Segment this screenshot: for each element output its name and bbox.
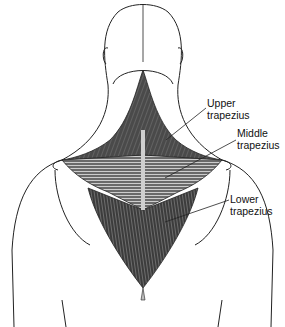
- label-upper-line2: trapezius: [207, 109, 250, 121]
- label-middle-line2: trapezius: [237, 139, 280, 151]
- leader-upper: [166, 108, 206, 140]
- label-middle-line1: Middle: [237, 127, 280, 139]
- trapezius-diagram: Upper trapezius Middle trapezius Lower t…: [0, 0, 285, 327]
- label-lower-line2: trapezius: [230, 205, 273, 217]
- label-upper-trapezius: Upper trapezius: [207, 97, 250, 121]
- trapezius-muscle: [62, 70, 222, 300]
- anatomy-illustration: [0, 0, 285, 327]
- label-lower-trapezius: Lower trapezius: [230, 193, 273, 217]
- label-lower-line1: Lower: [230, 193, 273, 205]
- label-upper-line1: Upper: [207, 97, 250, 109]
- label-middle-trapezius: Middle trapezius: [237, 127, 280, 151]
